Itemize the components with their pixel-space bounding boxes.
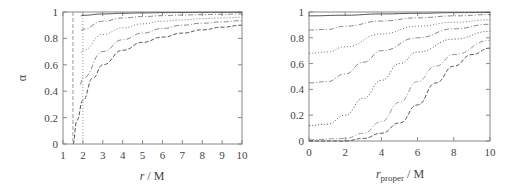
x-tick-label: 9 bbox=[219, 149, 225, 161]
right-x-ticks: 0246810 bbox=[306, 12, 496, 158]
y-tick-label: 0.8 bbox=[290, 32, 304, 44]
x-tick-label: 4 bbox=[120, 149, 126, 161]
data-curve bbox=[309, 24, 490, 83]
data-curve bbox=[80, 21, 242, 85]
left-plot-frame bbox=[63, 12, 242, 144]
left-x-axis-label: r / M bbox=[140, 169, 165, 183]
y-tick-label: 0 bbox=[53, 138, 59, 150]
right-curves bbox=[309, 12, 490, 141]
y-tick-label: 0.8 bbox=[44, 32, 58, 44]
figure: 00.20.40.60.81 12345678910 α r / M 00.20… bbox=[0, 0, 508, 188]
y-tick-label: 0.6 bbox=[290, 58, 304, 70]
x-tick-label: 1 bbox=[60, 149, 66, 161]
x-tick-label: 2 bbox=[80, 149, 86, 161]
data-curve bbox=[309, 48, 490, 141]
y-tick-label: 0.4 bbox=[290, 83, 304, 95]
x-tick-label: 8 bbox=[199, 149, 205, 161]
right-plot: 00.20.40.60.81 0246810 rproper / M bbox=[290, 6, 496, 183]
x-tick-label: 6 bbox=[415, 146, 421, 158]
y-tick-label: 1 bbox=[53, 6, 59, 18]
left-y-ticks: 00.20.40.60.81 bbox=[44, 6, 242, 150]
x-tick-label: 3 bbox=[100, 149, 106, 161]
data-curve bbox=[309, 20, 490, 54]
left-curves bbox=[73, 12, 242, 144]
left-plot: 00.20.40.60.81 12345678910 α r / M bbox=[15, 6, 248, 183]
y-tick-label: 0.6 bbox=[44, 59, 58, 71]
data-curve bbox=[81, 17, 242, 53]
x-tick-label: 4 bbox=[379, 146, 385, 158]
x-tick-label: 10 bbox=[485, 146, 497, 158]
y-tick-label: 0.2 bbox=[290, 109, 304, 121]
y-tick-label: 0.4 bbox=[44, 85, 58, 97]
right-y-ticks: 00.20.40.60.81 bbox=[290, 6, 490, 147]
x-tick-label: 10 bbox=[237, 149, 249, 161]
x-tick-label: 5 bbox=[140, 149, 146, 161]
x-tick-label: 0 bbox=[306, 146, 312, 158]
y-tick-label: 0.2 bbox=[44, 112, 58, 124]
y-tick-label: 0 bbox=[299, 135, 305, 147]
data-curve bbox=[73, 25, 242, 144]
right-plot-frame bbox=[309, 12, 490, 141]
data-curve bbox=[309, 40, 490, 139]
left-y-axis-label: α bbox=[15, 74, 29, 81]
x-tick-label: 7 bbox=[180, 149, 186, 161]
left-vertical-lines bbox=[73, 12, 83, 144]
y-tick-label: 1 bbox=[299, 6, 305, 18]
x-tick-label: 6 bbox=[160, 149, 166, 161]
right-x-axis-label: rproper / M bbox=[376, 167, 425, 183]
x-tick-label: 8 bbox=[451, 146, 457, 158]
x-tick-label: 2 bbox=[342, 146, 348, 158]
